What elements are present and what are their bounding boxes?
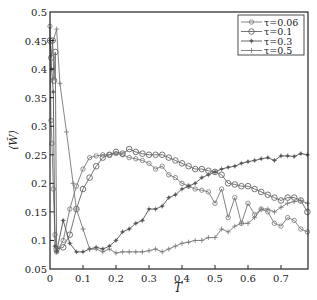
y-tick-label: 0.15 [25,207,47,218]
x-tick-label: 0.1 [75,273,91,284]
x-tick-label: 0.3 [141,273,157,284]
y-tick-label: 0.2 [31,178,47,189]
plot-area [47,24,310,255]
series-0.3 [48,38,310,254]
series-0.1 [47,38,310,252]
y-tick-label: 0.35 [25,93,47,104]
x-tick-label: 0 [47,273,53,284]
legend: τ=0.06τ=0.1τ=0.3τ=0.5 [238,15,304,56]
y-tick-label: 0.4 [31,64,47,75]
x-axis-label: T [174,281,183,295]
x-tick-label: 0.5 [207,273,223,284]
x-tick-label: 0.7 [273,273,289,284]
line-chart: 00.10.20.30.40.50.60.7 0.050.10.150.20.2… [0,0,317,300]
legend-item-label: τ=0.5 [264,45,292,56]
series-0.06 [48,24,310,254]
y-tick-label: 0.45 [25,36,47,47]
y-tick-label: 0.3 [31,121,47,132]
y-tick-label: 0.1 [31,235,47,246]
y-tick-label: 0.05 [25,264,47,275]
x-axis: 00.10.20.30.40.50.60.7 [47,265,289,284]
y-tick-label: 0.5 [31,7,47,18]
y-tick-label: 0.25 [25,150,47,161]
y-axis-label: ⟨W̃⟩ [7,130,20,150]
series-0.5 [48,27,310,256]
x-tick-label: 0.2 [108,273,124,284]
x-tick-label: 0.6 [240,273,256,284]
